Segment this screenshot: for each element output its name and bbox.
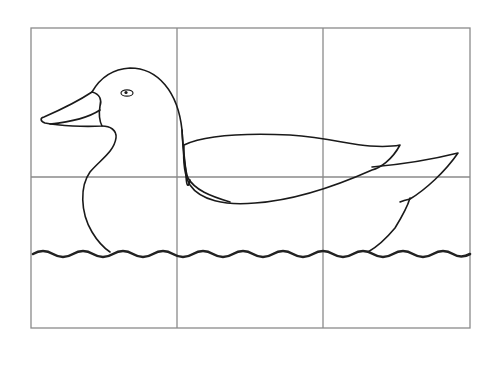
duck-neck-front [83,126,116,252]
grid-border [31,28,470,328]
grid [31,28,470,328]
duck-bill-mouth-line [50,110,100,124]
duck-wing [184,134,400,203]
duck-pupil [124,91,127,94]
duck-rear-body [368,198,410,252]
water-line [33,251,470,257]
duck-grid-drawing [0,0,496,365]
duck-back-neck [182,130,230,202]
